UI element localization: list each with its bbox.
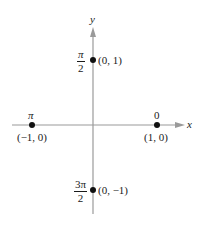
angle-numerator: π xyxy=(77,49,85,62)
angle-numerator-text: 3π xyxy=(75,178,86,190)
coord-label-bottom: (0, −1) xyxy=(98,185,128,196)
x-axis-label: x xyxy=(187,119,192,130)
angle-label-top: π 2 xyxy=(77,49,85,74)
angle-label-bottom: 3π 2 xyxy=(74,179,87,204)
y-axis-label: y xyxy=(90,14,95,25)
coord-label-left: (−1, 0) xyxy=(17,132,47,143)
point-right xyxy=(154,122,160,128)
angle-denominator: 2 xyxy=(78,192,84,204)
angle-denominator: 2 xyxy=(78,62,84,74)
angle-label-right: 0 xyxy=(154,110,160,121)
angle-numerator: 3π xyxy=(74,179,87,192)
point-left xyxy=(29,122,35,128)
coord-label-right: (1, 0) xyxy=(144,132,168,143)
point-top xyxy=(90,57,96,63)
angle-label-left: π xyxy=(28,110,34,121)
x-axis-arrow-icon xyxy=(175,122,185,128)
coord-label-top: (0, 1) xyxy=(98,55,122,66)
point-bottom xyxy=(90,187,96,193)
y-axis-arrow-icon xyxy=(90,27,96,37)
